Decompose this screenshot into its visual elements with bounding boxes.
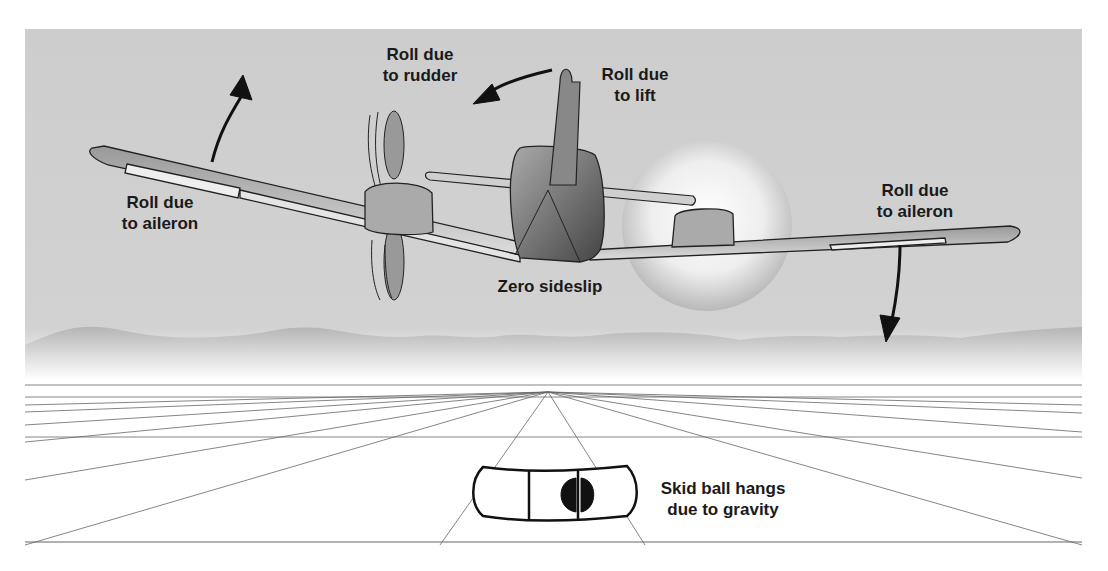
label-zero-sideslip: Zero sideslip [480,276,620,297]
label-roll-due-to-aileron-left: Roll due to aileron [100,192,220,234]
label-roll-due-to-lift: Roll due to lift [580,64,690,106]
skid-ball-instrument [473,466,637,521]
label-roll-due-to-rudder: Roll due to rudder [360,44,480,86]
label-roll-due-to-aileron-right: Roll due to aileron [850,180,980,222]
left-nacelle [365,183,433,235]
label-skid-ball: Skid ball hangs due to gravity [648,478,798,520]
right-nacelle [672,209,734,247]
